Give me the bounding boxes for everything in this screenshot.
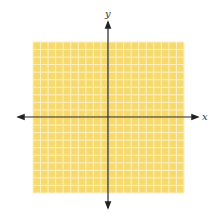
x-axis-label: x	[202, 111, 208, 122]
y-axis-label: y	[104, 8, 111, 19]
coordinate-plane: x y	[0, 0, 214, 220]
